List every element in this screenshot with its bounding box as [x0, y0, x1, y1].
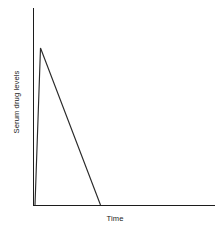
plot-area: Time Serum drug levels: [0, 0, 222, 235]
x-axis-title: Time: [107, 214, 124, 223]
y-axis-title: Serum drug levels: [12, 70, 21, 133]
chart-figure: Time Serum drug levels: [0, 0, 222, 235]
serum-drug-level-curve: [35, 48, 101, 205]
